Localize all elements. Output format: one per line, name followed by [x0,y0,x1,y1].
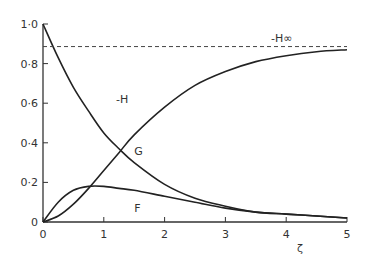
y-tick-label: 0·8 [21,58,39,71]
x-tick-label: 2 [161,228,168,241]
y-tick-label: 1·0 [21,18,39,31]
curve-label: -H∞ [271,32,292,45]
line-chart: 01234500·20·40·60·81·0ζ-H∞-HGF [0,0,369,259]
x-tick-label: 1 [100,228,107,241]
chart: 01234500·20·40·60·81·0ζ-H∞-HGF [0,0,369,259]
y-tick-label: 0·6 [21,97,39,110]
curve-label: G [134,145,143,158]
y-tick-label: 0·2 [21,176,39,189]
curve-h [43,50,347,222]
x-tick-label: 5 [344,228,351,241]
x-tick-label: 3 [222,228,229,241]
y-tick-label: 0·4 [21,137,39,150]
curve-f [43,186,347,222]
curve-label: F [134,202,140,215]
x-tick-label: 4 [283,228,290,241]
y-tick-label: 0 [31,216,38,229]
curve-label: -H [116,93,128,106]
x-tick-label: 0 [40,228,47,241]
x-axis-label: ζ [297,242,303,255]
